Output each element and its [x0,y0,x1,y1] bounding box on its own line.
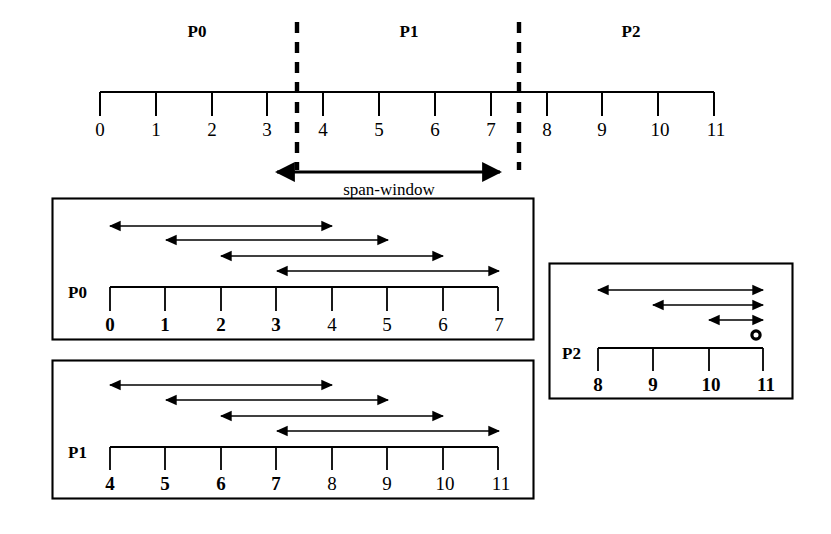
timeline-tick-label-4: 4 [318,120,328,139]
timeline-tick-label-6: 6 [430,120,440,139]
partition-dividers [297,22,519,170]
p1-tick-label-6: 6 [216,474,226,493]
timeline-tick-label-0: 0 [95,120,105,139]
p2-tick-label-9: 9 [648,375,658,394]
timeline-tick-label-2: 2 [207,120,217,139]
timeline-tick-label-3: 3 [262,120,272,139]
box-p2-axis [598,348,763,371]
p2-tick-label-8: 8 [593,375,603,394]
p1-tick-label-11: 11 [492,474,510,493]
diagram-vector-layer [0,0,831,534]
span-window-label: span-window [343,181,435,198]
p0-tick-label-2: 2 [216,315,226,334]
p0-tick-label-6: 6 [438,315,448,334]
p0-tick-label-1: 1 [160,315,170,334]
p1-tick-label-4: 4 [105,474,115,493]
box-p2-spans [598,290,763,339]
timeline-partition-label-p0: P0 [188,23,207,40]
p2-tick-label-10: 10 [702,375,721,394]
p2-tick-label-11: 11 [757,375,775,394]
timeline-tick-label-10: 10 [651,120,670,139]
timeline-tick-label-5: 5 [374,120,384,139]
box-p0-spans [110,226,499,271]
timeline-partition-label-p2: P2 [622,23,641,40]
timeline-tick-label-8: 8 [542,120,552,139]
timeline-tick-label-11: 11 [707,120,725,139]
box-p1-spans [110,385,499,431]
box-label-p2: P2 [562,345,581,362]
p1-tick-label-9: 9 [382,474,392,493]
box-label-p0: P0 [68,284,87,301]
p0-tick-label-4: 4 [327,315,337,334]
p0-tick-label-5: 5 [382,315,392,334]
p1-tick-label-8: 8 [327,474,337,493]
p1-tick-label-7: 7 [271,474,281,493]
point-11 [752,331,760,339]
p0-tick-label-0: 0 [105,315,115,334]
box-label-p1: P1 [68,444,87,461]
box-p0-axis [110,287,498,311]
p0-tick-label-7: 7 [494,315,504,334]
p0-tick-label-3: 3 [271,315,281,334]
box-p1-axis [110,447,498,470]
timeline-partition-label-p1: P1 [400,23,419,40]
diagram-canvas: P0 P1 P2 0 1 2 3 4 5 6 7 8 9 10 11 span-… [0,0,831,534]
box-p1-frame [53,361,534,499]
p1-tick-label-10: 10 [436,474,455,493]
main-timeline-axis [100,92,714,116]
timeline-tick-label-7: 7 [486,120,496,139]
timeline-tick-label-9: 9 [597,120,607,139]
box-p0-frame [53,199,534,340]
p1-tick-label-5: 5 [160,474,170,493]
timeline-tick-label-1: 1 [151,120,161,139]
